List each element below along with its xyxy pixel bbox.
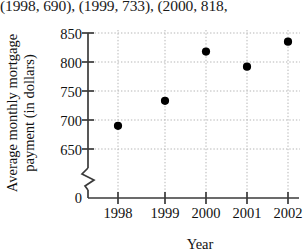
data-point-2000 xyxy=(202,47,210,55)
data-point-2001 xyxy=(243,63,251,71)
plot-area xyxy=(0,0,306,249)
y-axis-break-symbol xyxy=(82,168,94,190)
scatter-plot-figure: Average monthly mortgage payment (in dol… xyxy=(0,0,306,249)
data-point-2002 xyxy=(284,38,292,46)
data-point-1998 xyxy=(114,122,122,130)
data-point-markers xyxy=(114,38,292,130)
horizontal-gridlines xyxy=(88,33,300,149)
vertical-gridlines xyxy=(118,30,288,196)
data-point-1999 xyxy=(161,97,169,105)
